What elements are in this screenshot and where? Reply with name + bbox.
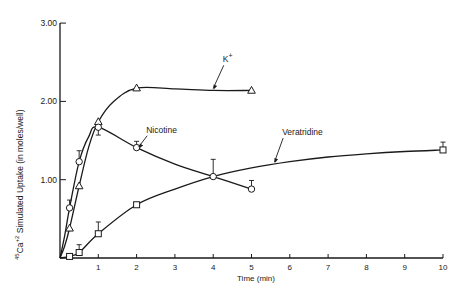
y-label-charge: +2 — [14, 236, 20, 243]
x-tick-label: 2 — [134, 263, 139, 272]
y-label-element: Ca — [15, 242, 25, 253]
series-markers — [66, 84, 446, 259]
x-tick-label: 3 — [173, 263, 178, 272]
circle-marker — [76, 158, 82, 164]
x-tick-label: 6 — [288, 263, 293, 272]
arrowhead-icon — [214, 85, 218, 90]
triangle-marker — [95, 118, 103, 125]
curve-veratridine — [60, 150, 443, 258]
triangle-marker — [75, 182, 83, 189]
circle-marker — [248, 186, 254, 192]
circle-marker — [133, 144, 139, 150]
y-tick-label: 1.00 — [40, 175, 57, 185]
x-tick-label: 4 — [211, 263, 216, 272]
label-pointer — [213, 65, 224, 88]
x-tick-label: 9 — [402, 263, 407, 272]
square-marker — [134, 202, 140, 208]
x-tick-label: 7 — [326, 263, 331, 272]
y-label-isotope: 45 — [14, 253, 20, 260]
x-tick-label: 1 — [96, 263, 101, 272]
square-marker — [67, 253, 73, 259]
y-label-text: Simulated Uptake (in moles/well) — [15, 109, 25, 235]
arrowhead-icon — [274, 158, 278, 163]
circle-marker — [210, 173, 216, 179]
y-tick-label: 2.00 — [40, 96, 57, 106]
curve-k — [60, 87, 252, 258]
series-labels: K+NicotineVeratridine — [139, 52, 324, 163]
label-nicotine: Nicotine — [146, 125, 177, 135]
x-axis-label: Time (min) — [237, 274, 275, 283]
square-marker — [440, 147, 446, 153]
y-tick-label: 3.00 — [40, 18, 57, 28]
circle-marker — [95, 124, 101, 130]
label-k: K+ — [223, 52, 233, 64]
circle-marker — [66, 205, 72, 211]
x-tick-label: 10 — [439, 263, 448, 272]
square-marker — [76, 250, 82, 256]
x-tick-label: 5 — [249, 263, 254, 272]
axes: 123456789101.002.003.00Time (min) — [40, 18, 448, 283]
x-tick-label: 8 — [364, 263, 369, 272]
square-marker — [95, 231, 101, 237]
label-veratridine: Veratridine — [282, 127, 323, 137]
uptake-time-chart: 123456789101.002.003.00Time (min) K+Nico… — [0, 0, 470, 305]
label-pointer — [274, 138, 283, 162]
series-curves — [60, 87, 443, 258]
